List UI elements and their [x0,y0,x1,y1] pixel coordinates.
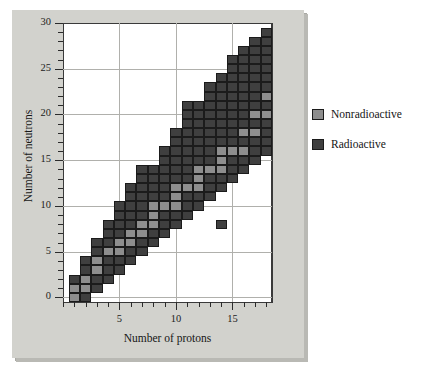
tick-x-minor [266,302,267,307]
nuclide-cell-radioactive [193,192,204,201]
nuclide-cell-radioactive [227,55,238,64]
nuclide-cell-radioactive [227,92,238,101]
legend-label-radioactive: Radioactive [331,138,386,150]
nuclide-cell-radioactive [249,146,260,155]
nuclide-cell-radioactive [227,119,238,128]
nuclide-cell-nonradioactive [193,174,204,183]
nuclide-cell-radioactive [238,137,249,146]
nuclide-cell-radioactive [216,183,227,192]
nuclide-cell-nonradioactive [170,201,181,210]
nuclide-cell-radioactive [114,201,125,210]
nuclide-cell-nonradioactive [114,238,125,247]
nuclide-cell-nonradioactive [80,284,91,293]
nuclide-cell-radioactive [91,247,102,256]
nuclide-cell-nonradioactive [80,275,91,284]
nuclide-cell-radioactive [238,73,249,82]
tick-x-minor [199,302,200,307]
nuclide-cell-radioactive [261,73,272,82]
nuclide-cell-radioactive [91,275,102,284]
legend-item-radioactive: Radioactive [312,138,418,150]
nuclide-cell-radioactive [170,146,181,155]
nuclide-cell-nonradioactive [170,183,181,192]
nuclide-cell-radioactive [249,55,260,64]
nuclide-cell-radioactive [159,220,170,229]
tick-x-minor [63,302,64,307]
nuclide-cell-radioactive [249,82,260,91]
nuclide-cell-radioactive [136,165,147,174]
nuclide-cell-radioactive [114,220,125,229]
nuclide-cell-radioactive [261,146,272,155]
nuclide-cell-radioactive [159,211,170,220]
nuclide-cell-radioactive [261,101,272,110]
tick-y-major [55,206,63,207]
nuclide-cell-nonradioactive [249,128,260,137]
nuclide-cell-nonradioactive [114,247,125,256]
tick-y-minor [58,270,63,271]
tick-x-minor [142,302,143,307]
nuclide-cell-radioactive [80,293,91,302]
tick-y-minor [58,169,63,170]
nuclide-cell-radioactive [103,275,114,284]
y-axis-title: Number of neutrons [22,76,34,236]
tick-y-minor [58,151,63,152]
nuclide-cell-radioactive [249,101,260,110]
tick-y-minor [58,78,63,79]
nuclide-cell-radioactive [148,229,159,238]
nuclide-cell-nonradioactive [249,110,260,119]
tick-x-minor [153,302,154,307]
nuclide-cell-radioactive [249,137,260,146]
nuclide-cell-nonradioactive [204,165,215,174]
tick-x-minor [210,302,211,307]
nuclide-cell-radioactive [125,220,136,229]
nuclide-cell-nonradioactive [148,220,159,229]
nuclide-cell-nonradioactive [91,265,102,274]
tick-x-minor [86,302,87,307]
nuclide-cell-radioactive [204,174,215,183]
nuclide-cell-nonradioactive [170,192,181,201]
tick-y-minor [58,96,63,97]
tick-y-major [55,23,63,24]
nuclide-cell-radioactive [238,92,249,101]
nuclide-cell-radioactive [261,46,272,55]
nuclide-cell-radioactive [249,119,260,128]
nuclide-cell-nonradioactive [125,229,136,238]
nuclide-cell-radioactive [238,46,249,55]
tick-y-major [55,69,63,70]
panel-drop-shadow-bottom [16,358,308,362]
nuclide-cell-radioactive [261,82,272,91]
nuclide-cell-radioactive [159,192,170,201]
nuclide-cell-radioactive [136,238,147,247]
nuclide-cell-radioactive [216,119,227,128]
nuclide-cell-radioactive [216,82,227,91]
nuclide-cell-radioactive [216,110,227,119]
x-tick-label: 15 [217,313,247,324]
nuclide-cell-radioactive [204,92,215,101]
nuclide-cell-nonradioactive [261,110,272,119]
nuclide-cell-radioactive [238,82,249,91]
tick-y-minor [58,133,63,134]
nuclide-cell-nonradioactive [193,165,204,174]
nuclide-cell-radioactive [216,220,227,229]
tick-y-major [55,297,63,298]
nuclide-cell-radioactive [170,211,181,220]
legend-item-nonradioactive: Nonradioactive [312,108,418,120]
nuclide-cell-radioactive [148,183,159,192]
nuclide-cell-radioactive [103,256,114,265]
nuclide-cell-radioactive [182,110,193,119]
tick-x-minor [221,302,222,307]
nuclide-cell-nonradioactive [238,128,249,137]
nuclide-cell-radioactive [227,137,238,146]
tick-y-minor [58,188,63,189]
nuclide-cell-radioactive [69,275,80,284]
nuclide-cell-radioactive [91,238,102,247]
nuclide-cell-radioactive [193,146,204,155]
nuclide-cell-radioactive [136,201,147,210]
tick-x-major [176,302,177,310]
nuclide-cell-radioactive [193,137,204,146]
nuclide-cell-radioactive [103,238,114,247]
nuclide-cell-radioactive [216,174,227,183]
nuclide-cell-nonradioactive [182,183,193,192]
tick-y-minor [58,32,63,33]
nuclide-cell-radioactive [238,119,249,128]
nuclide-cell-radioactive [136,211,147,220]
